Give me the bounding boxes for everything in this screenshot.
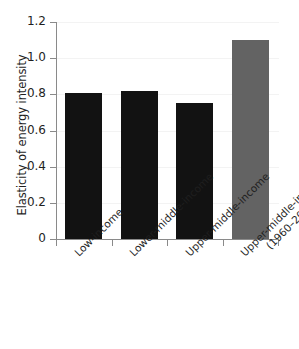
- x-tick-mark-1: [112, 240, 113, 246]
- x-tick-mark-0: [56, 240, 57, 246]
- bar-chart-figure: Elasticity of energy intensity 1.21.00.8…: [0, 0, 299, 349]
- x-tick-mark-2: [167, 240, 168, 246]
- bar-1[interactable]: [65, 93, 102, 239]
- y-tick-label-1.2: 1.2: [0, 15, 46, 27]
- y-tick-label-0: 0: [0, 232, 46, 244]
- bar-2[interactable]: [121, 91, 158, 239]
- y-tick-label-1.0: 1.0: [0, 51, 46, 63]
- x-tick-mark-3: [223, 240, 224, 246]
- y-tick-label-0.2: 0.2: [0, 196, 46, 208]
- y-tick-label-0.4: 0.4: [0, 160, 46, 172]
- y-tick-label-0.8: 0.8: [0, 87, 46, 99]
- y-tick-label-0.6: 0.6: [0, 124, 46, 136]
